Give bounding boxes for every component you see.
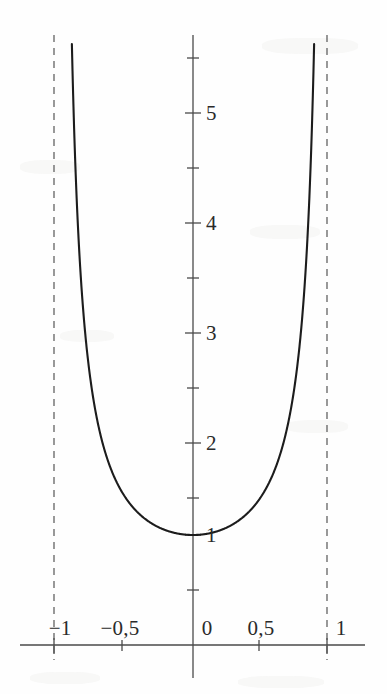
plot-area — [0, 0, 387, 694]
x-tick-label-0: 0 — [202, 618, 213, 639]
x-tick-label--1: −1 — [49, 618, 72, 639]
axes-group — [20, 35, 365, 678]
x-tick-label-1: 1 — [336, 618, 347, 639]
asymptotes-group — [54, 35, 327, 660]
y-tick-label-4: 4 — [206, 213, 217, 234]
x-tick-label--0.5: −0,5 — [101, 618, 140, 639]
y-tick-label-5: 5 — [206, 103, 217, 124]
x-axis-ticks — [54, 638, 327, 654]
y-tick-label-2: 2 — [206, 433, 217, 454]
y-tick-label-1: 1 — [206, 525, 217, 546]
y-tick-label-3: 3 — [206, 323, 217, 344]
figure-container: −1 −0,5 0 0,5 1 1 2 3 4 5 — [0, 0, 387, 694]
x-tick-label-0.5: 0,5 — [248, 618, 275, 639]
